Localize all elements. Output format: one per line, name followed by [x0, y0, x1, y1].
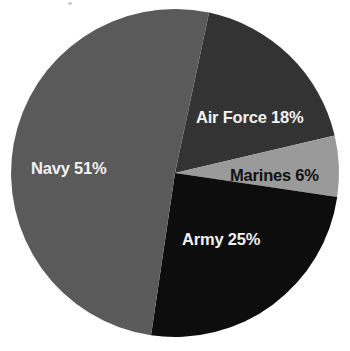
pie-label-navy: Navy 51%	[31, 160, 106, 177]
image-artifact-speck	[68, 2, 72, 5]
pie-chart: Navy 51% Air Force 18% Marines 6% Army 2…	[0, 0, 350, 351]
pie-slice-army[interactable]	[151, 173, 337, 337]
pie-label-army: Army 25%	[182, 231, 260, 248]
pie-label-marines: Marines 6%	[230, 167, 319, 184]
pie-label-air-force: Air Force 18%	[196, 109, 303, 126]
